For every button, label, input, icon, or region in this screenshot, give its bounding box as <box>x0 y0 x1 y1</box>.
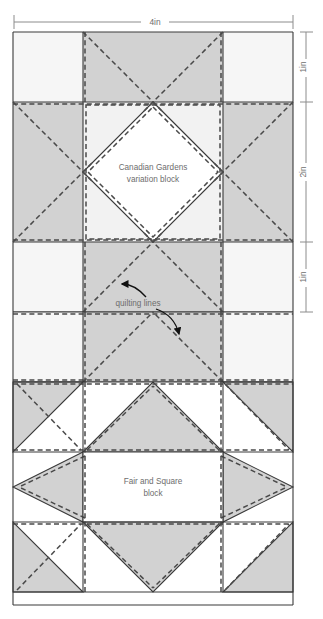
dimension-top-label: 4in <box>149 17 161 27</box>
block-fair-and-square: Fair and Square block <box>13 382 293 605</box>
fs-center-square <box>83 452 223 522</box>
cg-label-line1: Canadian Gardens <box>119 163 188 172</box>
cg-side-right <box>223 102 293 242</box>
quilt-diagram-figure: 4in 1in 2in 1in <box>0 0 323 619</box>
dimension-top: 4in <box>14 14 293 29</box>
cg-corner-br <box>223 242 293 312</box>
block-canadian-gardens: Canadian Gardens variation block <box>13 32 293 312</box>
cg-corner-tl <box>13 32 83 102</box>
cg-side-top <box>83 32 223 102</box>
tb-cell-left <box>13 312 83 382</box>
cg-corner-tr <box>223 32 293 102</box>
cg-corner-bl <box>13 242 83 312</box>
transition-band <box>13 312 293 382</box>
dimension-right-label-1in-top: 1in <box>298 61 308 73</box>
quilting-lines-label: quilting lines <box>115 299 160 308</box>
fs-label-line1: Fair and Square <box>124 477 183 486</box>
tb-cell-right <box>223 312 293 382</box>
dimension-right-group: 1in 2in 1in <box>298 32 313 312</box>
quilt-diagram-svg: 4in 1in 2in 1in <box>0 0 323 619</box>
dimension-right-label-1in-bottom: 1in <box>298 271 308 283</box>
tb-cell-center <box>83 312 223 382</box>
dimension-right-label-2in: 2in <box>298 166 308 178</box>
fs-label-line2: block <box>143 489 163 498</box>
cg-side-left <box>13 102 83 242</box>
cg-label-line2: variation block <box>127 175 180 184</box>
